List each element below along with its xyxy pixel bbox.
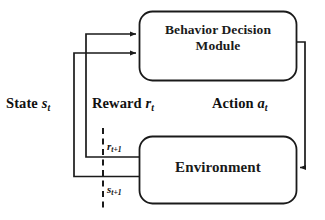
reward-edge-label: Reward rt — [92, 95, 154, 113]
action-edge-label-subscript: t — [265, 102, 268, 113]
state-edge-label-subscript: t — [47, 102, 50, 113]
state-edge-label-text: State — [6, 95, 38, 111]
reward-edge-label-subscript: t — [151, 102, 154, 113]
state-next-step-label: st+1 — [107, 183, 122, 197]
reward-edge-label-text: Reward — [92, 95, 142, 111]
state-next-step-subscript: t+1 — [111, 188, 121, 197]
action-edge-label-text: Action — [212, 95, 254, 111]
behavior-label-line1: Behavior Decision — [142, 22, 294, 38]
behavior-decision-module-label: Behavior Decision Module — [142, 22, 294, 54]
reward-next-step-subscript: t+1 — [111, 145, 121, 154]
behavior-label-line2: Module — [142, 38, 294, 54]
environment-label-line1: Environment — [142, 159, 294, 177]
action-edge-label: Action at — [212, 95, 268, 113]
action-edge-label-symbol: a — [257, 95, 264, 111]
state-edge-path — [74, 53, 139, 177]
reward-next-step-label: rt+1 — [107, 140, 122, 154]
state-edge-label: State st — [6, 95, 50, 113]
action-edge-path — [297, 42, 305, 168]
environment-label: Environment — [142, 159, 294, 177]
rl-loop-diagram: Behavior Decision Module Environment Sta… — [0, 0, 325, 220]
